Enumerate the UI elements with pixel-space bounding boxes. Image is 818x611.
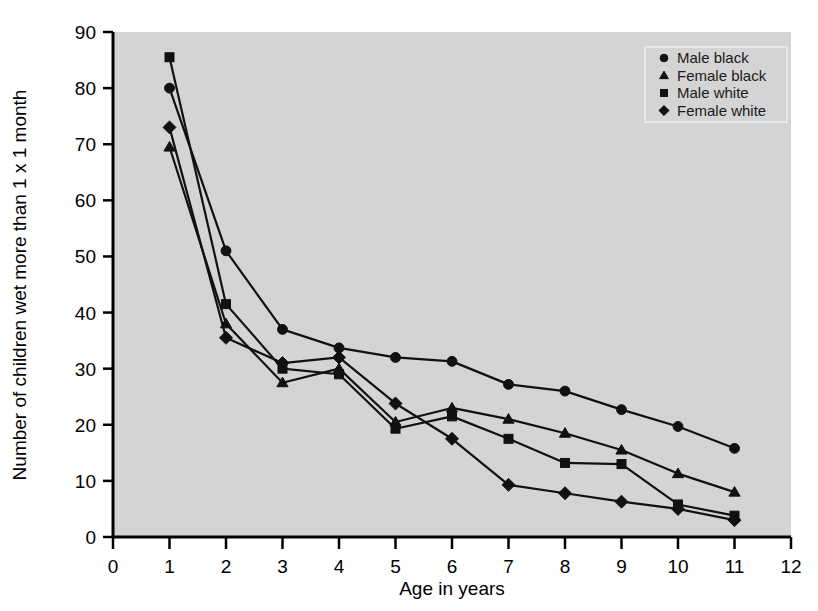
data-point bbox=[673, 422, 683, 432]
y-tick-label: 40 bbox=[75, 303, 96, 324]
x-tick-label: 9 bbox=[616, 556, 627, 577]
x-axis-title: Age in years bbox=[399, 578, 505, 599]
square-icon bbox=[661, 90, 668, 97]
y-axis: 0102030405060708090 bbox=[75, 22, 113, 548]
x-tick-label: 1 bbox=[164, 556, 175, 577]
data-point bbox=[448, 412, 457, 421]
y-tick-label: 60 bbox=[75, 190, 96, 211]
x-tick-label: 7 bbox=[503, 556, 514, 577]
data-point bbox=[165, 53, 174, 62]
y-tick-label: 30 bbox=[75, 359, 96, 380]
chart-container: 0102030405060708090 0123456789101112 Age… bbox=[0, 0, 818, 611]
y-tick-label: 70 bbox=[75, 134, 96, 155]
y-tick-label: 80 bbox=[75, 78, 96, 99]
y-tick-label: 90 bbox=[75, 22, 96, 43]
y-tick-label: 50 bbox=[75, 246, 96, 267]
y-axis-title: Number of children wet more than 1 x 1 m… bbox=[9, 90, 30, 481]
data-point bbox=[165, 83, 175, 93]
data-point bbox=[221, 246, 231, 256]
data-point bbox=[335, 370, 344, 379]
y-tick-label: 10 bbox=[75, 471, 96, 492]
data-point bbox=[447, 356, 457, 366]
legend-item-label: Male white bbox=[677, 84, 749, 101]
y-tick-label: 0 bbox=[85, 527, 96, 548]
data-point bbox=[278, 324, 288, 334]
data-point bbox=[504, 434, 513, 443]
data-point bbox=[391, 352, 401, 362]
x-tick-label: 3 bbox=[277, 556, 288, 577]
legend-item-label: Female black bbox=[677, 67, 767, 84]
circle-icon bbox=[660, 54, 668, 62]
data-point bbox=[617, 460, 626, 469]
x-tick-label: 12 bbox=[780, 556, 801, 577]
x-tick-label: 5 bbox=[390, 556, 401, 577]
x-tick-label: 0 bbox=[108, 556, 119, 577]
data-point bbox=[561, 458, 570, 467]
line-chart: 0102030405060708090 0123456789101112 Age… bbox=[0, 0, 818, 611]
data-point bbox=[504, 379, 514, 389]
x-tick-label: 2 bbox=[221, 556, 232, 577]
y-tick-label: 20 bbox=[75, 415, 96, 436]
x-tick-label: 4 bbox=[334, 556, 345, 577]
legend-item-label: Female white bbox=[677, 102, 766, 119]
x-tick-label: 10 bbox=[667, 556, 688, 577]
data-point bbox=[222, 300, 231, 309]
data-point bbox=[730, 443, 740, 453]
x-tick-label: 8 bbox=[560, 556, 571, 577]
data-point bbox=[560, 386, 570, 396]
legend-item-label: Male black bbox=[677, 49, 749, 66]
x-axis: 0123456789101112 bbox=[108, 537, 802, 577]
data-point bbox=[391, 424, 400, 433]
x-tick-label: 11 bbox=[725, 556, 745, 577]
x-tick-label: 6 bbox=[447, 556, 458, 577]
data-point bbox=[617, 405, 627, 415]
